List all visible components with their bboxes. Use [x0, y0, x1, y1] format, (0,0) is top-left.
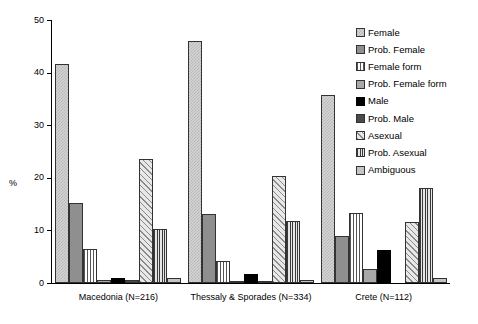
legend-item[interactable]: Female: [356, 24, 478, 41]
legend-item-label: Prob. Asexual: [368, 148, 427, 158]
bar: [188, 41, 202, 283]
legend-item[interactable]: Ambiguous: [356, 162, 478, 179]
bar: [125, 280, 139, 283]
bar: [419, 188, 433, 283]
legend-item-label: Asexual: [368, 131, 402, 141]
bar: [83, 249, 97, 283]
bar: [300, 280, 314, 283]
bar: [286, 221, 300, 283]
legend-swatch-icon: [356, 97, 365, 106]
legend-item[interactable]: Male: [356, 93, 478, 110]
bar: [335, 236, 349, 283]
y-tick-mark: [47, 178, 51, 179]
x-axis-group-label: Crete (N=112): [317, 292, 450, 302]
legend-swatch-icon: [356, 80, 365, 89]
y-tick-mark: [47, 230, 51, 231]
x-axis-group-label: Thessaly & Sporades (N=334): [185, 292, 318, 302]
bar: [167, 278, 181, 283]
y-tick-mark: [47, 125, 51, 126]
legend-item[interactable]: Prob. Female form: [356, 76, 478, 93]
legend-swatch-icon: [356, 131, 365, 140]
bar: [153, 229, 167, 283]
y-tick-label: 20: [20, 173, 44, 182]
y-tick-label: 10: [20, 226, 44, 235]
chart-legend: FemaleProb. FemaleFemale formProb. Femal…: [356, 24, 478, 179]
legend-item-label: Female form: [368, 62, 421, 72]
bar: [216, 261, 230, 283]
y-tick-label: 40: [20, 68, 44, 77]
bar: [111, 278, 125, 283]
legend-swatch-icon: [356, 45, 365, 54]
bar-group: [188, 20, 314, 283]
bar-chart: 01020304050 % Macedonia (N=216)Thessaly …: [0, 0, 478, 324]
bar: [349, 213, 363, 283]
legend-item-label: Female: [368, 28, 400, 38]
bar: [97, 280, 111, 283]
legend-swatch-icon: [356, 114, 365, 123]
legend-item[interactable]: Prob. Asexual: [356, 144, 478, 161]
bar: [202, 214, 216, 283]
bar: [69, 203, 83, 283]
y-tick-label: 50: [20, 16, 44, 25]
bar-group: [55, 20, 181, 283]
y-tick-mark: [47, 20, 51, 21]
bar: [377, 250, 391, 283]
legend-item-label: Prob. Female: [368, 45, 425, 55]
legend-swatch-icon: [356, 148, 365, 157]
y-tick-mark: [47, 73, 51, 74]
bar: [55, 64, 69, 283]
legend-item[interactable]: Prob. Female: [356, 41, 478, 58]
legend-swatch-icon: [356, 28, 365, 37]
y-tick-label: 0: [20, 279, 44, 288]
bar: [321, 95, 335, 283]
y-tick-label: 30: [20, 121, 44, 130]
legend-item-label: Ambiguous: [368, 165, 416, 175]
bar: [433, 278, 447, 283]
bar: [363, 269, 377, 283]
x-axis-line: [51, 283, 450, 284]
bar: [244, 274, 258, 283]
legend-item[interactable]: Female form: [356, 58, 478, 75]
bar: [230, 281, 244, 283]
legend-item[interactable]: Asexual: [356, 127, 478, 144]
bar: [405, 222, 419, 283]
y-tick-mark: [47, 283, 51, 284]
x-axis-group-label: Macedonia (N=216): [52, 292, 185, 302]
legend-swatch-icon: [356, 166, 365, 175]
bar: [272, 176, 286, 283]
bar: [139, 159, 153, 283]
legend-swatch-icon: [356, 62, 365, 71]
legend-item-label: Prob. Male: [368, 114, 414, 124]
legend-item-label: Male: [368, 96, 389, 106]
bar: [258, 281, 272, 283]
legend-item[interactable]: Prob. Male: [356, 110, 478, 127]
legend-item-label: Prob. Female form: [368, 79, 447, 89]
y-axis-title: %: [9, 178, 17, 188]
